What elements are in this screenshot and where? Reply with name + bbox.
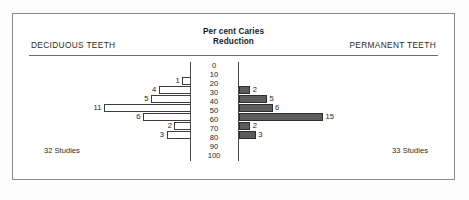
deciduous-bar-value-30-40: 5 — [144, 94, 148, 103]
deciduous-bar-row: 4 — [13, 86, 190, 94]
deciduous-bar-value-40-50: 11 — [94, 103, 102, 112]
deciduous-bar-60-70 — [174, 122, 190, 130]
deciduous-bar-30-40 — [151, 95, 190, 103]
permanent-bar-value-30-40: 5 — [270, 94, 274, 103]
deciduous-bar-50-60 — [143, 113, 190, 121]
tick-label-100: 100 — [194, 152, 234, 160]
deciduous-studies-count: 32 Studies — [44, 146, 80, 155]
permanent-bar-value-70-80: 3 — [258, 130, 262, 139]
permanent-bar-30-40 — [239, 95, 267, 103]
permanent-bar-row: 15 — [239, 113, 454, 121]
deciduous-bar-40-50 — [104, 104, 190, 112]
deciduous-bar-row: 11 — [13, 104, 190, 112]
deciduous-bar-value-50-60: 6 — [136, 112, 140, 121]
permanent-bar-value-40-50: 6 — [275, 103, 279, 112]
chart-frame: Per cent Caries Reduction DECIDUOUS TEET… — [12, 13, 455, 180]
deciduous-bar-value-20-30: 4 — [152, 85, 156, 94]
deciduous-bar-value-10-20: 1 — [175, 76, 179, 85]
permanent-bar-row: 6 — [239, 104, 454, 112]
deciduous-teeth-header: DECIDUOUS TEETH — [31, 40, 115, 50]
permanent-bar-value-50-60: 15 — [326, 112, 334, 121]
deciduous-bar-70-80 — [167, 131, 190, 139]
permanent-bar-50-60 — [239, 113, 323, 121]
permanent-bar-value-20-30: 2 — [253, 85, 257, 94]
right-axis-spine — [238, 62, 239, 161]
tick-label-30: 30 — [194, 89, 234, 97]
permanent-bar-row: 2 — [239, 86, 454, 94]
permanent-bar-row: 3 — [239, 131, 454, 139]
permanent-studies-count: 33 Studies — [392, 146, 428, 155]
left-axis-spine — [190, 62, 191, 161]
permanent-bar-60-70 — [239, 122, 250, 130]
permanent-teeth-header: PERMANENT TEETH — [349, 40, 436, 50]
tick-label-column: 0102030405060708090100 — [194, 62, 234, 161]
tick-label-60: 60 — [194, 116, 234, 124]
tick-label-40: 40 — [194, 98, 234, 106]
tick-label-90: 90 — [194, 143, 234, 151]
deciduous-bar-value-60-70: 2 — [168, 121, 172, 130]
tick-label-0: 0 — [194, 62, 234, 70]
tick-label-70: 70 — [194, 125, 234, 133]
permanent-bar-40-50 — [239, 104, 273, 112]
chart-title-line1: Per cent Caries — [203, 27, 264, 36]
permanent-bar-20-30 — [239, 86, 250, 94]
deciduous-bar-value-70-80: 3 — [160, 130, 164, 139]
permanent-bar-row: 2 — [239, 122, 454, 130]
tick-label-80: 80 — [194, 134, 234, 142]
deciduous-bar-row: 2 — [13, 122, 190, 130]
permanent-bar-value-60-70: 2 — [253, 121, 257, 130]
tick-label-20: 20 — [194, 80, 234, 88]
tick-label-50: 50 — [194, 107, 234, 115]
deciduous-bar-row: 1 — [13, 77, 190, 85]
deciduous-bar-row: 3 — [13, 131, 190, 139]
deciduous-bar-20-30 — [159, 86, 190, 94]
permanent-bar-row: 5 — [239, 95, 454, 103]
deciduous-bar-10-20 — [182, 77, 190, 85]
tick-label-10: 10 — [194, 71, 234, 79]
header-divider-rule — [29, 55, 438, 56]
permanent-bar-70-80 — [239, 131, 256, 139]
deciduous-bar-row: 6 — [13, 113, 190, 121]
deciduous-bar-row: 5 — [13, 95, 190, 103]
figure-root: Per cent Caries Reduction DECIDUOUS TEET… — [0, 0, 469, 200]
